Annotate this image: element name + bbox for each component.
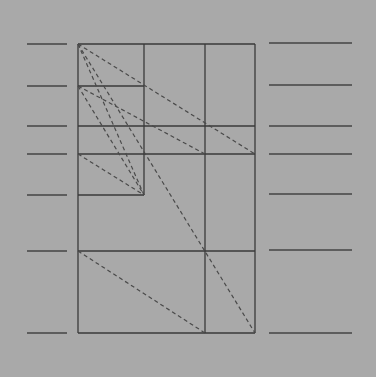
diagram-canvas: [0, 0, 376, 377]
dashed-diagonal: [78, 154, 144, 195]
dashed-diagonal: [78, 86, 205, 154]
dashed-diagonal: [78, 44, 255, 154]
right-guide-lines: [269, 43, 352, 333]
dashed-diagonals: [78, 44, 255, 333]
dashed-diagonal: [78, 86, 144, 195]
dashed-diagonal: [78, 44, 255, 333]
grid-diagram: [0, 0, 376, 377]
dashed-diagonal: [78, 44, 144, 195]
left-guide-lines: [27, 44, 67, 333]
dashed-diagonal: [78, 251, 205, 333]
